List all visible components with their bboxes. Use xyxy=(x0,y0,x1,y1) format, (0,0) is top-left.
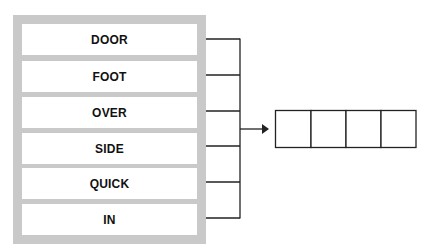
answer-box-1[interactable] xyxy=(276,111,312,148)
answer-boxes xyxy=(276,111,417,148)
connector-lines xyxy=(0,0,428,251)
answer-box-4[interactable] xyxy=(381,111,416,148)
arrow-right-icon xyxy=(262,124,269,134)
answer-box-2[interactable] xyxy=(311,111,346,148)
answer-box-3[interactable] xyxy=(346,111,381,148)
